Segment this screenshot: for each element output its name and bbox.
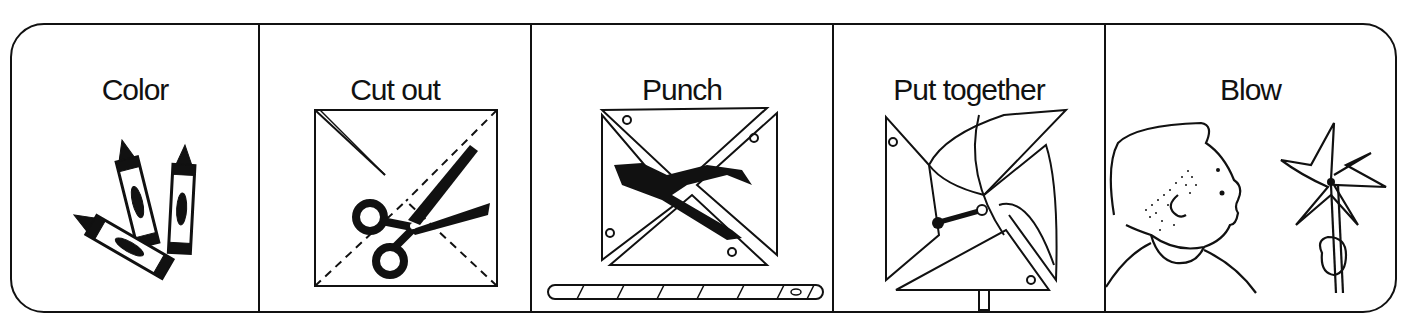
pinwheel-assembly-icon	[834, 25, 1106, 313]
step-panel-cut-out: Cut out	[260, 25, 532, 311]
boy-blowing-pinwheel-icon	[1106, 25, 1396, 313]
step-panel-punch: Punch	[532, 25, 834, 311]
step-panel-color: Color	[12, 25, 260, 311]
hole-punch-icon	[532, 25, 834, 313]
scissors-icon	[260, 25, 532, 313]
step-panel-put-together: Put together	[834, 25, 1106, 311]
instruction-strip: Color	[10, 23, 1397, 313]
step-panel-blow: Blow	[1106, 25, 1395, 311]
crayons-icon	[12, 25, 260, 313]
